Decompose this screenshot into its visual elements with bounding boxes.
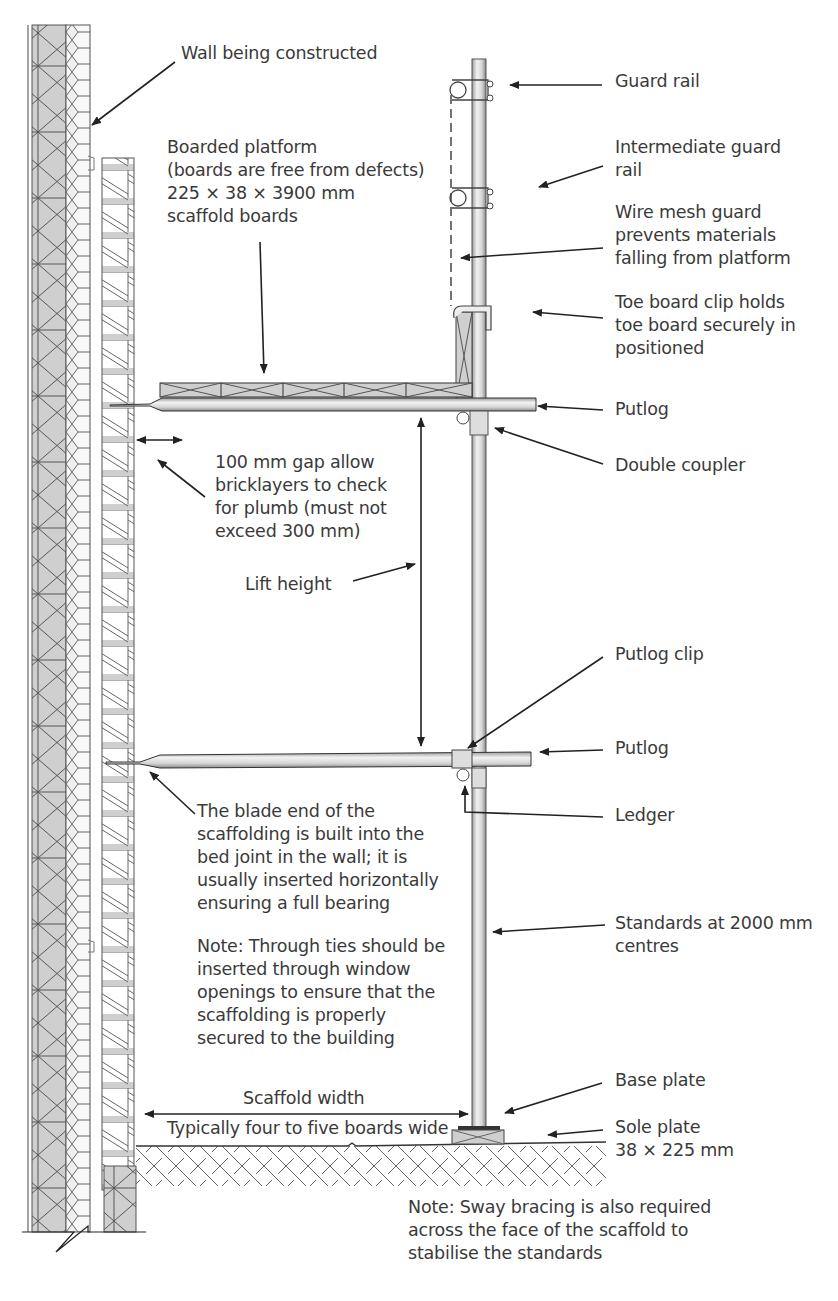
arrow-putlog-clip bbox=[468, 657, 603, 748]
label-blade-end: The blade end of the scaffolding is buil… bbox=[197, 800, 439, 915]
arrow-lift-height-label bbox=[353, 564, 415, 581]
label-putlog-lower: Putlog bbox=[615, 737, 669, 760]
arrow-gap bbox=[158, 460, 205, 497]
label-wire-mesh-guard: Wire mesh guard prevents materials falli… bbox=[615, 201, 791, 270]
label-boarded-platform: Boarded platform (boards are free from d… bbox=[167, 136, 425, 228]
wall bbox=[22, 25, 146, 1252]
putlog-upper bbox=[110, 398, 536, 411]
label-gap: 100 mm gap allow bricklayers to check fo… bbox=[215, 451, 387, 543]
arrow-blade-end bbox=[150, 772, 195, 814]
label-scaffold-width: Scaffold width bbox=[243, 1087, 364, 1110]
label-toe-board-clip: Toe board clip holds toe board securely … bbox=[615, 291, 796, 360]
label-through-ties-note: Note: Through ties should be inserted th… bbox=[197, 935, 445, 1050]
label-ledger: Ledger bbox=[615, 804, 674, 827]
boarded-platform bbox=[160, 383, 472, 397]
double-coupler bbox=[470, 411, 488, 435]
putlog-clip bbox=[452, 750, 472, 768]
wall-block-leaf bbox=[32, 25, 66, 1232]
standard-tube bbox=[472, 59, 486, 1133]
arrow-double-coupler bbox=[495, 428, 603, 464]
ground bbox=[136, 1142, 606, 1186]
label-sole-plate: Sole plate 38 × 225 mm bbox=[615, 1116, 734, 1162]
ledger-lower bbox=[457, 769, 469, 781]
wall-foundation-block bbox=[104, 1166, 136, 1232]
arrow-wall bbox=[92, 62, 175, 125]
label-scaffold-width-sub: Typically four to five boards wide bbox=[167, 1117, 448, 1140]
label-guard-rail: Guard rail bbox=[615, 70, 700, 93]
ledger-upper bbox=[457, 412, 469, 424]
wall-insulation bbox=[66, 25, 90, 1232]
arrow-putlog-upper bbox=[538, 406, 603, 410]
label-putlog-upper: Putlog bbox=[615, 398, 669, 421]
base-plate bbox=[458, 1126, 500, 1130]
wall-brick-leaf bbox=[102, 158, 134, 1190]
arrow-toe-clip bbox=[533, 312, 603, 318]
arrow-putlog-lower bbox=[540, 750, 603, 752]
arrow-sole-plate bbox=[548, 1130, 603, 1135]
label-base-plate: Base plate bbox=[615, 1069, 706, 1092]
label-putlog-clip: Putlog clip bbox=[615, 643, 704, 666]
arrow-standards bbox=[493, 925, 605, 932]
arrow-base-plate bbox=[505, 1083, 602, 1113]
arrow-platform bbox=[260, 242, 264, 373]
label-intermediate-guard-rail: Intermediate guard rail bbox=[615, 136, 781, 182]
arrow-intermediate bbox=[539, 166, 603, 187]
label-sway-bracing-note: Note: Sway bracing is also required acro… bbox=[408, 1196, 711, 1265]
label-lift-height: Lift height bbox=[245, 573, 331, 596]
label-standards: Standards at 2000 mm centres bbox=[615, 912, 813, 958]
label-double-coupler: Double coupler bbox=[615, 454, 745, 477]
label-wall: Wall being constructed bbox=[181, 42, 377, 65]
